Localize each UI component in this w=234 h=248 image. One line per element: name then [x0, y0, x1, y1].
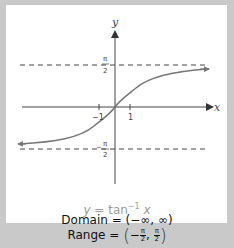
lower-minus-label: −: [96, 144, 102, 152]
y-axis-label: y: [111, 16, 119, 29]
lower-pi-label: π: [103, 140, 108, 148]
lower-two-label: 2: [103, 151, 107, 159]
x-axis-label: x: [214, 101, 221, 114]
range-prefix: Range =: [67, 228, 123, 242]
domain-text: Domain = (−∞, ∞): [0, 213, 234, 227]
eq-inverse: −1: [128, 202, 140, 211]
upper-pi-label: π: [103, 55, 108, 63]
range-sep: ,: [146, 228, 154, 242]
upper-two-label: 2: [103, 67, 107, 75]
range-text: Range = (−π2, π2): [0, 228, 234, 243]
range-minus: −: [130, 228, 140, 242]
tick-label-neg1: −1: [92, 113, 104, 122]
tick-label-pos1: 1: [128, 113, 133, 122]
